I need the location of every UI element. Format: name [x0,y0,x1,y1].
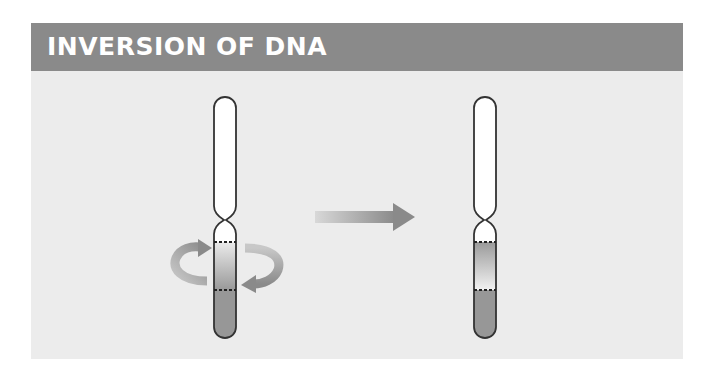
inverted-segment [214,242,236,290]
inverted-segment [474,242,496,290]
inversion-diagram [0,0,721,384]
right-arrow-icon [315,203,415,231]
original-chromosome [214,97,236,338]
inverted-chromosome [474,97,496,338]
